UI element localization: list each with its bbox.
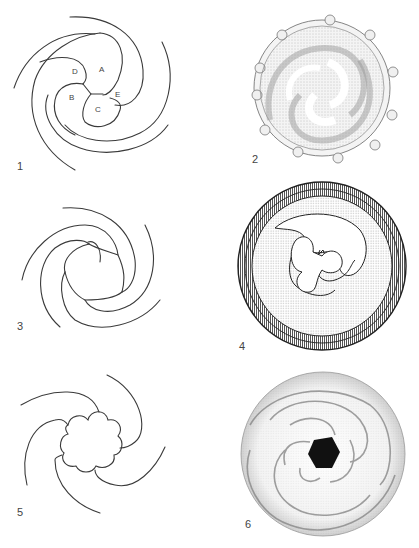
- spiral-drawing-6: [210, 370, 419, 548]
- panel-4: 4: [210, 180, 419, 370]
- figure-number-1: 1: [17, 160, 23, 172]
- label-C: C: [95, 105, 101, 114]
- panel-3: 3: [0, 180, 210, 370]
- label-A: A: [99, 65, 105, 74]
- panel-5: 5: [0, 370, 210, 548]
- panel-6: 6: [210, 370, 419, 548]
- figure-number-6: 6: [245, 518, 251, 530]
- spiral-diagram-1: D A B E C: [0, 0, 210, 180]
- panel-2: 2: [210, 0, 419, 180]
- spiral-diagram-5: [0, 370, 210, 548]
- label-B: B: [69, 93, 74, 102]
- panel-1: D A B E C 1: [0, 0, 210, 180]
- figure-number-4: 4: [239, 340, 245, 352]
- figure-number-3: 3: [17, 320, 23, 332]
- label-E: E: [115, 90, 120, 99]
- figure-number-5: 5: [17, 506, 23, 518]
- spiral-diagram-3: [0, 180, 210, 370]
- spiral-drawing-2: [210, 0, 419, 180]
- label-D: D: [72, 67, 78, 76]
- figure-number-2: 2: [252, 153, 258, 165]
